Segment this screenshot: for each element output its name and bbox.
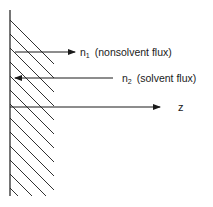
n1-label: n1(nonsolvent flux) [80,46,172,59]
z-axis-label: z [178,101,184,113]
hatched-wall-region [0,0,90,207]
flux-diagram: n1(nonsolvent flux) n2(solvent flux) z [0,0,213,207]
n2-label: n2(solvent flux) [122,72,196,85]
